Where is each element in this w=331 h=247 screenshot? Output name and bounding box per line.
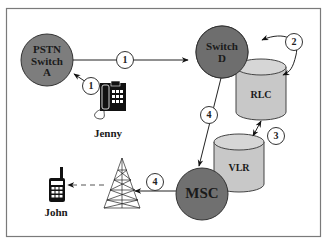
- diagram-canvas: PSTN Switch A Switch D RLC VLR MSC Jenny…: [0, 0, 331, 247]
- label-line: D: [200, 53, 244, 65]
- step-4-badge: 4: [146, 173, 164, 191]
- msc-label: MSC: [180, 186, 224, 202]
- step-1-badge: 1: [116, 51, 134, 69]
- label-line: A: [27, 67, 67, 79]
- step-3-badge: 3: [267, 127, 285, 145]
- switch-d-label: Switch D: [200, 41, 244, 64]
- label-line: Switch: [200, 41, 244, 53]
- step-2-badge: 2: [285, 33, 303, 51]
- pstn-switch-a-label: PSTN Switch A: [27, 44, 67, 79]
- step-4-badge: 4: [200, 106, 218, 124]
- step-1-badge: 1: [82, 77, 100, 95]
- label-line: PSTN: [27, 44, 67, 56]
- vlr-label: VLR: [224, 163, 254, 174]
- rlc-label: RLC: [246, 90, 276, 101]
- john-label: John: [38, 207, 74, 219]
- jenny-label: Jenny: [88, 128, 128, 140]
